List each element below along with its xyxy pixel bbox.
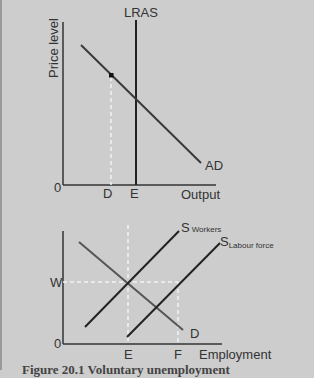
employment-label: Employment [199, 347, 272, 362]
ad-line [81, 45, 201, 163]
supply-workers-line [85, 231, 179, 327]
output-label: Output [181, 187, 220, 202]
bottom-tick-e: E [124, 347, 133, 362]
supply-workers-label: SWorkers [181, 220, 221, 235]
bottom-chart: D SWorkers SLabour force W 0 E F Employm… [50, 220, 274, 362]
top-tick-e: E [130, 186, 139, 201]
bottom-tick-f: F [174, 347, 182, 362]
lras-label: LRAS [124, 5, 158, 20]
top-chart: Price level LRAS AD 0 D E Output [46, 5, 223, 202]
equilibrium-point [109, 73, 114, 78]
ad-label: AD [205, 158, 223, 173]
top-tick-d: D [103, 186, 112, 201]
bottom-origin-label: 0 [54, 336, 61, 351]
supply-labour-force-label: SLabour force [220, 234, 274, 250]
demand-label: D [190, 326, 199, 341]
top-origin-label: 0 [54, 180, 61, 195]
price-level-label: Price level [46, 18, 61, 78]
wage-w-label: W [50, 275, 63, 290]
figure-caption: Figure 20.1 Voluntary unemployment [22, 362, 230, 378]
